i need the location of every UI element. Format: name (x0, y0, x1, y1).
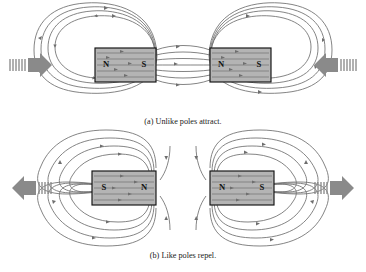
panel-a-field-lines (34, 3, 332, 94)
panel-b-magnet-right: N S (210, 171, 274, 205)
panel-b-magnet-left-pole-s: S (102, 182, 107, 192)
panel-b-magnet-right-pole-s: S (260, 182, 265, 192)
panel-b: S N N S (12, 130, 354, 260)
panel-a-magnet-left-pole-s: S (142, 59, 147, 69)
panel-a-force-arrow-right (314, 53, 356, 77)
panel-a-magnet-left-pole-n: N (103, 59, 110, 69)
panel-b-magnet-right-pole-n: N (219, 182, 226, 192)
panel-b-field-lines (38, 130, 329, 246)
panel-a-caption: (a) Unlike poles attract. (144, 117, 221, 126)
panel-a: N S N S (10, 3, 356, 126)
magnet-field-figure: N S N S (0, 0, 366, 272)
panel-b-force-arrow-right (315, 176, 354, 200)
panel-b-caption: (b) Like poles repel. (150, 251, 216, 260)
panel-a-magnet-right-pole-s: S (257, 59, 262, 69)
panel-b-magnet-left-pole-n: N (141, 182, 148, 192)
panel-b-force-arrow-left (12, 176, 51, 200)
panel-a-magnet-right: N S (210, 48, 271, 82)
panel-b-magnet-left: S N (92, 171, 156, 205)
panel-a-magnet-left: N S (95, 48, 156, 82)
panel-a-magnet-right-pole-n: N (218, 59, 225, 69)
panel-a-force-arrow-left (10, 53, 52, 77)
